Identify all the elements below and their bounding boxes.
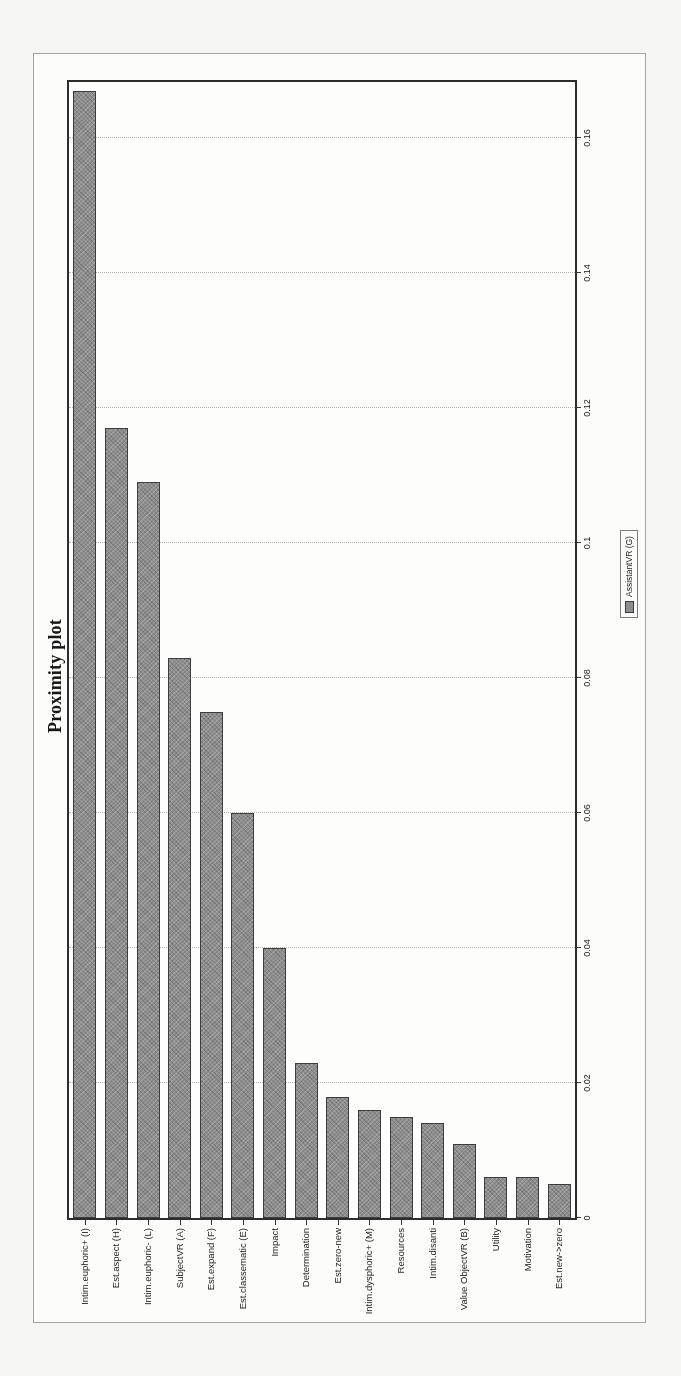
category-tick-mark — [148, 1220, 149, 1225]
category-label: Est.expand (F) — [205, 1228, 217, 1376]
scanned-page: { "chart_data": { "type": "bar", "orient… — [0, 0, 681, 1376]
x-tick-label: 0.12 — [582, 391, 592, 425]
legend-swatch-icon — [625, 601, 634, 613]
category-label: Intim.dysphoric+ (M) — [363, 1228, 375, 1376]
category-tick-mark — [211, 1220, 212, 1225]
category-label: Intim.euphoric+ (I) — [79, 1228, 91, 1376]
bar — [105, 428, 128, 1218]
x-tick-mark — [577, 137, 581, 138]
bar — [548, 1184, 571, 1218]
category-tick-mark — [85, 1220, 86, 1225]
bar — [326, 1097, 349, 1218]
x-tick-label: 0.04 — [582, 931, 592, 965]
category-tick-mark — [338, 1220, 339, 1225]
category-tick-mark — [401, 1220, 402, 1225]
x-tick-mark — [577, 272, 581, 273]
category-label: Impact — [269, 1228, 281, 1376]
gridline — [69, 137, 575, 138]
category-label: Value ObjectVR (B) — [458, 1228, 470, 1376]
bar — [168, 658, 191, 1218]
bar — [137, 482, 160, 1218]
category-tick-mark — [433, 1220, 434, 1225]
category-tick-mark — [180, 1220, 181, 1225]
x-tick-mark — [577, 1217, 581, 1218]
category-tick-mark — [243, 1220, 244, 1225]
x-tick-label: 0 — [582, 1201, 592, 1235]
category-tick-mark — [116, 1220, 117, 1225]
bar — [231, 813, 254, 1218]
category-label: Utility — [490, 1228, 502, 1376]
gridline — [69, 407, 575, 408]
bar — [200, 712, 223, 1218]
category-tick-mark — [306, 1220, 307, 1225]
category-tick-mark — [369, 1220, 370, 1225]
legend: AssistantVR (G) — [620, 530, 638, 618]
x-tick-mark — [577, 677, 581, 678]
x-tick-label: 0.08 — [582, 661, 592, 695]
category-label: Est.aspect (H) — [110, 1228, 122, 1376]
x-tick-label: 0.16 — [582, 121, 592, 155]
category-label: Determination — [300, 1228, 312, 1376]
x-tick-mark — [577, 1082, 581, 1083]
category-tick-mark — [528, 1220, 529, 1225]
category-label: Motivation — [522, 1228, 534, 1376]
bar — [263, 948, 286, 1218]
x-tick-mark — [577, 407, 581, 408]
category-tick-mark — [464, 1220, 465, 1225]
x-tick-mark — [577, 542, 581, 543]
category-label: Est.zero-new — [332, 1228, 344, 1376]
x-tick-mark — [577, 812, 581, 813]
x-tick-label: 0.1 — [582, 526, 592, 560]
legend-label: AssistantVR (G) — [624, 536, 634, 597]
category-tick-mark — [559, 1220, 560, 1225]
category-label: Intim.disanti — [427, 1228, 439, 1376]
bar — [73, 91, 96, 1218]
bar — [484, 1177, 507, 1218]
bar — [390, 1117, 413, 1218]
bar — [516, 1177, 539, 1218]
x-tick-mark — [577, 947, 581, 948]
category-label: Intim.euphoric- (L) — [142, 1228, 154, 1376]
category-tick-mark — [496, 1220, 497, 1225]
x-tick-label: 0.02 — [582, 1066, 592, 1100]
category-label: Est.new->zero — [553, 1228, 565, 1376]
rotated-chart-canvas: Proximity plot 00.020.040.060.080.10.120… — [0, 0, 681, 1376]
category-tick-mark — [275, 1220, 276, 1225]
gridline — [69, 272, 575, 273]
bar — [358, 1110, 381, 1218]
category-label: SubjectVR (A) — [174, 1228, 186, 1376]
x-tick-label: 0.06 — [582, 796, 592, 830]
bar — [295, 1063, 318, 1218]
category-label: Resources — [395, 1228, 407, 1376]
category-label: Est.classematic (E) — [237, 1228, 249, 1376]
x-tick-label: 0.14 — [582, 256, 592, 290]
bar — [453, 1144, 476, 1218]
chart-title: Proximity plot — [45, 108, 66, 1244]
bar — [421, 1123, 444, 1218]
